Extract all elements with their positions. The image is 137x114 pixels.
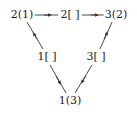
edge-1b-to-13	[50, 65, 66, 93]
node-3-2: 3(2)	[104, 9, 129, 21]
edge-3b-to-32	[100, 22, 112, 49]
edge-3b-to-13	[75, 65, 92, 93]
node-2-1: 2(1)	[10, 9, 35, 21]
node-3-empty: 3[ ]	[85, 51, 106, 63]
node-2-empty: 2[ ]	[59, 9, 80, 21]
node-1-3: 1(3)	[58, 95, 83, 107]
diagram-canvas: 2(1) 2[ ] 3(2) 1[ ] 3[ ] 1(3)	[0, 0, 137, 114]
node-1-empty: 1[ ]	[36, 51, 57, 63]
edge-1b-to-21	[27, 22, 43, 49]
